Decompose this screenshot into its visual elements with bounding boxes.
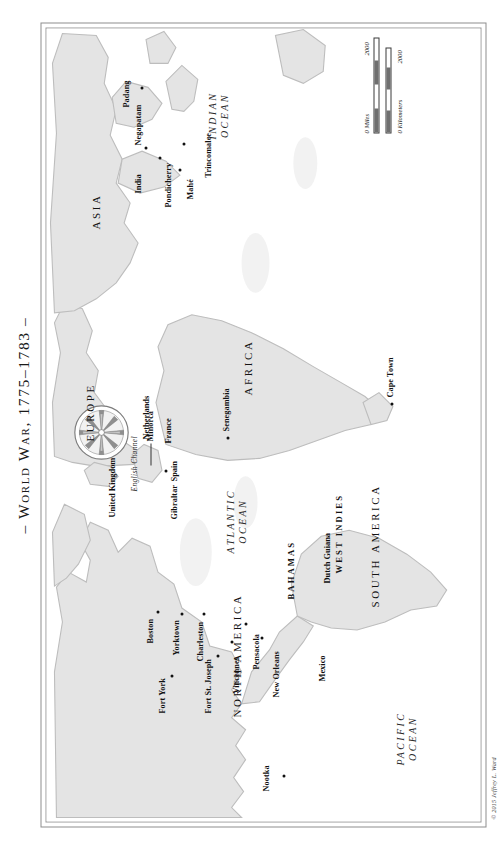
page-title: – World War, 1775–1783 – [14,0,32,849]
label-pensacola: Pensacola [252,634,260,669]
label-dutch-guiana: Dutch Guiana [322,533,332,584]
label-gibraltar: Gibraltar [170,484,178,519]
scale-bar-miles [373,37,379,133]
dot-new-orleans [260,636,263,639]
label-padang: Padang [122,80,130,107]
sea-shading-1 [179,518,211,586]
label-asia: ASIA [90,193,101,229]
label-south-america: SOUTH AMERICA [368,484,381,607]
landmass-north-america [54,522,245,817]
map-plate: – World War, 1775–1783 – [0,0,503,849]
label-france: France [164,418,172,443]
dot-vincennes [230,640,233,643]
label-pondicherry: Pondicherry [164,162,172,207]
dot-fort-york [170,674,173,677]
scale-miles-end: 2000 [362,42,369,55]
label-minorca: Minorca [146,410,154,441]
dot-padang [140,86,143,89]
label-mexico: Mexico [318,655,326,681]
landmass-greenland [52,504,90,586]
dot-senegambia [226,436,229,439]
dot-mahe [178,168,181,171]
label-north-america: NORTH AMERICA [230,593,243,717]
label-africa: AFRICA [242,339,253,395]
label-europe: EUROPE [84,383,95,441]
label-new-orleans: New Orleans [272,651,280,697]
label-west-indies: WEST INDIES [334,493,343,573]
dot-charleston [202,612,205,615]
scale-km-start: 0 Kilometers [395,99,402,133]
dot-boston [156,610,159,613]
label-yorktown: Yorktown [172,620,180,655]
landmass-borneo [146,31,176,63]
dot-yorktown [180,612,183,615]
scale-bar-kilometers [385,47,391,133]
label-united-kingdom: United Kingdom [108,457,116,517]
landmass-sumatra [165,65,197,111]
landmass-australia [275,29,325,83]
label-mahe: Mahé [186,179,194,199]
label-nootka: Nootka [262,765,270,791]
label-atlantic-ocean: ATLANTICOCEAN [224,489,247,553]
dot-pensacola [244,622,247,625]
label-cape-town: Cape Town [386,357,394,397]
scale-miles-start: 0 Miles [362,113,369,133]
map-frame-inner: NORTH AMERICA SOUTH AMERICA EUROPE AFRIC… [45,27,481,822]
label-charleston: Charleston [196,621,204,661]
label-senegambia: Senegambia [222,388,230,431]
scale-km-end: 2000 [395,50,402,63]
dot-pondicherry [158,156,161,159]
label-pacific-ocean: PACIFICOCEAN [394,711,417,765]
dot-trincomalee [182,142,185,145]
map-page: – World War, 1775–1783 – [0,0,503,849]
scale-bar: 0 Miles 2000 0 Kilometers 2000 [362,27,420,133]
dot-nootka [282,774,285,777]
label-trincomalee: Trincomalee [204,132,212,177]
label-negapatam: Negapatam [134,104,142,145]
sea-shading-4 [293,137,317,189]
compass-rose-icon [72,403,130,461]
sea-shading-3 [241,232,269,292]
label-boston: Boston [146,618,154,643]
label-fort-york: Fort York [158,678,166,713]
label-spain: Spain [170,461,178,482]
label-india: India [134,174,142,193]
landmass-africa [155,314,380,460]
dot-negapatam [144,146,147,149]
dot-cape-town [390,402,393,405]
dot-fort-st-joseph [216,654,219,657]
label-vincennes: Vincennes [232,656,240,693]
label-bahamas: BAHAMAS [286,540,295,599]
dot-gibraltar [164,469,167,472]
map-credit: © 2015 Jeffrey L. Ward [489,757,496,819]
label-english-channel-text: English Channel [130,436,137,491]
leader-minorca [150,443,151,465]
label-fort-st-joseph: Fort St. Joseph [204,659,212,714]
